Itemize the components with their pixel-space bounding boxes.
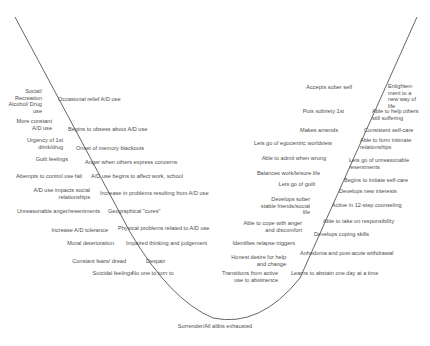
ascent-label: Able to admit when wrong xyxy=(250,155,326,162)
ascent-label: Able to take on responsibility xyxy=(323,218,394,225)
ascent-label: Balances work/leisure life xyxy=(250,170,320,177)
ascent-label: Begins to initiate self-care xyxy=(344,177,408,184)
descent-label: Moral deterioration xyxy=(30,240,114,247)
descent-label: Occasional relief A/D use xyxy=(58,96,121,103)
descent-label: Suicidal feelings xyxy=(50,270,133,277)
descent-label: Physical problems related to A/D use xyxy=(118,225,209,232)
ascent-label: Lets go of unreasonable resentments xyxy=(349,157,424,170)
ascent-label: Develops sober stable friends/social lif… xyxy=(260,196,310,216)
descent-label: Increase in problems resulting from A/D … xyxy=(100,190,209,197)
descent-label: Unreasonable anger/resentments xyxy=(0,208,100,215)
ascent-label: Able to cope with anger and discomfort xyxy=(240,220,302,233)
ascent-label: Able to help others still suffering xyxy=(372,108,422,121)
ascent-label: Develops coping skills xyxy=(314,231,369,238)
ascent-label: Anhedonia and post-acute withdrawal xyxy=(300,250,393,257)
descent-label: No one to turn to xyxy=(132,270,174,277)
bottom-label: Surrender/All alibis exhausted xyxy=(160,323,270,330)
ascent-label: Makes amends xyxy=(290,127,338,134)
ascent-label: Enlighten- ment to a new way of life xyxy=(388,83,422,109)
descent-label: Urgency of 1st drink/drug xyxy=(18,137,63,150)
descent-label: Despair xyxy=(146,258,165,265)
ascent-label: Puts sobriety 1st xyxy=(300,108,344,115)
ascent-label: Lets go of egocentric worldview xyxy=(250,140,332,147)
ascent-label: Able to form intimate relationships xyxy=(360,137,420,150)
descent-label: A/D use begins to affect work, school xyxy=(91,173,183,180)
ascent-label: Transitions from active use to abstinenc… xyxy=(214,270,278,283)
ascent-label: Develops new interests xyxy=(339,188,397,195)
ascent-label: Accepts sober self xyxy=(300,84,352,91)
ascent-label: Honest desire for help and change xyxy=(228,254,286,267)
descent-label: Anger when others express concerns xyxy=(85,159,177,166)
descent-label: Guilt feelings xyxy=(10,156,68,163)
ascent-label: Consistent self-care xyxy=(364,127,413,134)
descent-label: Begins to obsess about A/D use xyxy=(68,126,147,133)
descent-label: Increase A/D tolerance xyxy=(20,227,108,234)
ascent-label: Learns to abstain one day at a time xyxy=(291,270,378,277)
descent-label: Attempts to control use fail xyxy=(0,173,82,180)
descent-label: Constant fears/ dread xyxy=(40,258,126,265)
ascent-label: Active in 12-step counseling xyxy=(332,202,402,209)
descent-label: A/D use impacts social relationships xyxy=(20,187,90,200)
descent-label: Social/ Recreation Alcohol/ Drug use xyxy=(4,88,42,114)
descent-label: More constant A/D use xyxy=(10,118,52,131)
descent-label: Impaired thinking and judgement xyxy=(126,240,207,247)
descent-label: Geographical "cures" xyxy=(108,208,160,215)
descent-label: Onset of memory blackouts xyxy=(76,145,144,152)
ascent-label: Identifies relapse triggers xyxy=(230,240,295,247)
ascent-label: Lets go of guilt xyxy=(270,181,315,188)
